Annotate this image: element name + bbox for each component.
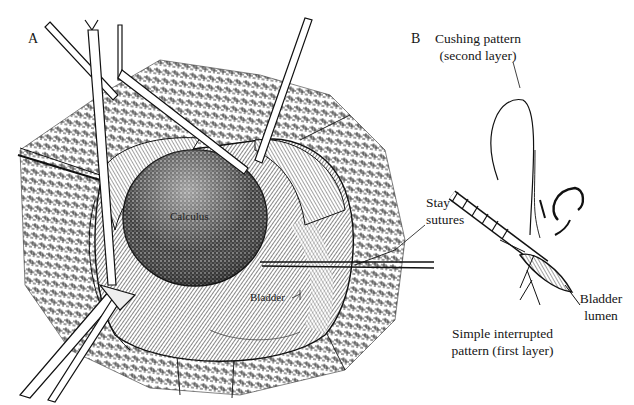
figure-canvas: A B Calculus Bladder Cushing pattern (se… [0, 0, 634, 405]
simple-interrupted-line1: Simple interrupted [440, 325, 565, 342]
stay-sutures-line1: Stay [426, 194, 464, 211]
stay-sutures-line2: sutures [426, 211, 464, 228]
bladder-lumen-line1: Bladder [576, 290, 626, 307]
bladder-label: Bladder [250, 289, 285, 306]
simple-interrupted-label: Simple interrupted pattern (first layer) [440, 325, 565, 359]
simple-interrupted-line2: pattern (first layer) [440, 342, 565, 359]
cushing-pattern-title: Cushing pattern [428, 30, 528, 47]
panel-a-letter: A [28, 30, 38, 47]
cushing-pattern-subtitle: (second layer) [428, 47, 528, 64]
bladder-lumen-label: Bladder lumen [576, 290, 626, 324]
bladder-lumen-line2: lumen [576, 307, 626, 324]
stay-sutures-label: Stay sutures [426, 194, 464, 228]
panel-b-letter: B [411, 30, 420, 47]
calculus-label: Calculus [170, 208, 209, 225]
closure-diagram [452, 62, 583, 305]
cushing-pattern-label: Cushing pattern (second layer) [428, 30, 528, 64]
